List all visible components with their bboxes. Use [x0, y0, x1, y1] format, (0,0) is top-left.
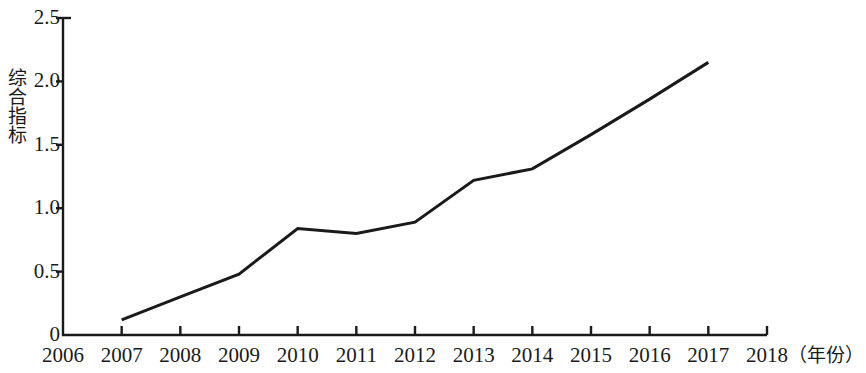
- line-chart: 综合指标 00.51.01.52.02.5 200620072008200920…: [0, 0, 866, 373]
- x-axis-ticks: [122, 326, 767, 335]
- x-axis-tick-label-group: 2006200720082009201020112012201320142015…: [0, 343, 866, 373]
- x-axis-unit-label: （年份）: [788, 343, 864, 367]
- data-series-line: [122, 62, 709, 319]
- axis-lines: [63, 18, 767, 335]
- plot-area: [0, 0, 866, 373]
